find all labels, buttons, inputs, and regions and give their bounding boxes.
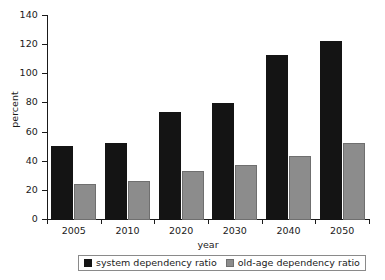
- black-square-icon: [84, 259, 92, 267]
- chart-legend: system dependency ratioold-age dependenc…: [78, 255, 366, 271]
- y-axis-tick-label: 60: [26, 127, 38, 137]
- y-axis-tick-label: 140: [20, 10, 38, 20]
- bar-2040-series-0: [266, 55, 288, 220]
- x-axis-tick-label: 2030: [208, 226, 262, 236]
- x-axis-tick: [154, 219, 155, 224]
- bar-group: [208, 15, 262, 220]
- bar-2040-series-1: [289, 156, 311, 220]
- x-axis-tick: [47, 219, 48, 224]
- bar-chart: percent 020406080100120140 2005201020202…: [0, 0, 385, 280]
- legend-label: old-age dependency ratio: [238, 258, 360, 268]
- bar-group: [315, 15, 369, 220]
- x-axis-tick-label: 2040: [262, 226, 316, 236]
- bar-group: [154, 15, 208, 220]
- x-axis-tick-label: 2020: [154, 226, 208, 236]
- bar-2005-series-1: [74, 184, 96, 220]
- bar-2030-series-1: [235, 165, 257, 220]
- y-axis-title: percent: [9, 80, 20, 140]
- bar-group: [47, 15, 101, 220]
- bar-2010-series-1: [128, 181, 150, 220]
- bar-group: [262, 15, 316, 220]
- x-axis-tick-label: 2010: [101, 226, 155, 236]
- bar-2050-series-1: [343, 143, 365, 220]
- y-axis-tick-label: 0: [32, 214, 38, 224]
- x-axis-tick-label: 2050: [315, 226, 369, 236]
- y-axis-tick-label: 120: [20, 39, 38, 49]
- y-axis-tick-label: 40: [26, 156, 38, 166]
- x-axis-tick: [262, 219, 263, 224]
- bar-2020-series-0: [159, 112, 181, 220]
- bar-2010-series-0: [105, 143, 127, 220]
- legend-label: system dependency ratio: [96, 258, 217, 268]
- x-axis-tick-label: 2005: [47, 226, 101, 236]
- bar-2050-series-0: [320, 41, 342, 220]
- legend-entry: old-age dependency ratio: [226, 258, 360, 268]
- bar-groups: [47, 15, 369, 220]
- bar-group: [101, 15, 155, 220]
- bar-2005-series-0: [51, 146, 73, 220]
- x-axis-tick: [208, 219, 209, 224]
- x-axis-tick: [315, 219, 316, 224]
- y-axis-tick-label: 100: [20, 68, 38, 78]
- y-axis-tick-label: 80: [26, 97, 38, 107]
- gray-square-icon: [226, 259, 234, 267]
- y-axis-tick-label: 20: [26, 185, 38, 195]
- bar-2030-series-0: [212, 103, 234, 220]
- legend-entry: system dependency ratio: [84, 258, 217, 268]
- x-axis-title: year: [47, 239, 369, 250]
- bar-2020-series-1: [182, 171, 204, 220]
- x-axis-tick: [369, 219, 370, 224]
- x-axis-tick: [101, 219, 102, 224]
